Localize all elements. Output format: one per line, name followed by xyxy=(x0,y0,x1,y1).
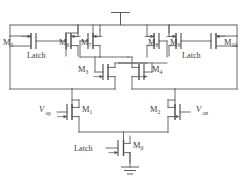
transistor-M2 xyxy=(168,100,190,132)
svg-text:10: 10 xyxy=(232,42,238,48)
transistor-label-M1: M 1 xyxy=(82,105,93,115)
circuit-schematic-figure: M 5 M 6 Latch xyxy=(0,0,247,185)
svg-text:Latch: Latch xyxy=(74,144,93,153)
latch-label-right: Latch xyxy=(182,51,201,60)
vdd-bar-icon xyxy=(111,13,130,26)
svg-text:2: 2 xyxy=(158,109,161,115)
svg-text:8: 8 xyxy=(156,42,159,48)
transistor-M3 xyxy=(94,57,119,89)
transistor-label-M3: M 3 xyxy=(78,65,89,75)
svg-text:0: 0 xyxy=(141,145,144,151)
transistor-label-M8: M 8 xyxy=(148,38,159,48)
schematic-canvas: M 5 M 6 Latch xyxy=(0,0,247,185)
svg-text:op: op xyxy=(46,110,52,116)
svg-text:Latch: Latch xyxy=(182,51,201,60)
transistor-label-M6: M 6 xyxy=(59,38,70,48)
svg-text:on: on xyxy=(203,110,209,116)
svg-text:4: 4 xyxy=(160,69,163,75)
transistor-label-M7: M 7 xyxy=(81,38,92,48)
transistor-M6 xyxy=(66,25,80,56)
svg-text:1: 1 xyxy=(90,109,93,115)
svg-text:6: 6 xyxy=(67,42,70,48)
svg-text:3: 3 xyxy=(86,69,89,75)
m6-branch-wires xyxy=(66,25,78,56)
transistor-label-M9: M 9 xyxy=(170,38,181,48)
transistor-label-M5: M 5 xyxy=(3,38,14,48)
svg-text:Latch: Latch xyxy=(27,51,46,60)
latch-label-left: Latch xyxy=(27,51,46,60)
transistor-M1 xyxy=(57,100,79,132)
svg-text:7: 7 xyxy=(89,42,92,48)
cross-coupling-bus xyxy=(80,57,167,63)
transistor-label-M4: M 4 xyxy=(152,65,163,75)
transistor-label-M0: M 0 xyxy=(133,141,144,151)
svg-text:5: 5 xyxy=(11,42,14,48)
transistor-M4 xyxy=(128,57,152,89)
transistor-M10 xyxy=(211,33,225,49)
svg-text:9: 9 xyxy=(178,42,181,48)
transistor-M0 xyxy=(106,136,130,163)
transistor-label-M10: M 10 xyxy=(224,38,237,48)
svg-text:V: V xyxy=(39,105,45,114)
input-label-vop: V op xyxy=(39,105,51,116)
input-label-von: V on xyxy=(196,105,208,116)
svg-text:V: V xyxy=(196,105,202,114)
latch-label-bottom: Latch xyxy=(74,144,93,153)
transistor-label-M2: M 2 xyxy=(150,105,161,115)
